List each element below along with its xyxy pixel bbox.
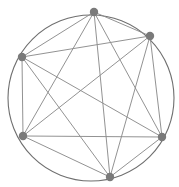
- graph-node[interactable]: [18, 53, 26, 61]
- graph-figure: [0, 0, 179, 187]
- graph-edge: [23, 136, 110, 177]
- graph-edge: [110, 36, 150, 177]
- edge-layer: [22, 12, 162, 177]
- graph-node[interactable]: [158, 133, 166, 141]
- graph-node[interactable]: [90, 8, 98, 16]
- graph-canvas: [0, 0, 179, 187]
- graph-node[interactable]: [106, 173, 114, 181]
- graph-edge: [94, 12, 150, 36]
- graph-edge: [23, 12, 94, 136]
- graph-edge: [23, 136, 162, 137]
- graph-edge: [22, 36, 150, 57]
- graph-edge: [150, 36, 162, 137]
- graph-edge: [110, 137, 162, 177]
- graph-edge: [22, 57, 23, 136]
- graph-node[interactable]: [146, 32, 154, 40]
- graph-edge: [22, 12, 94, 57]
- graph-node[interactable]: [19, 132, 27, 140]
- graph-edge: [23, 36, 150, 136]
